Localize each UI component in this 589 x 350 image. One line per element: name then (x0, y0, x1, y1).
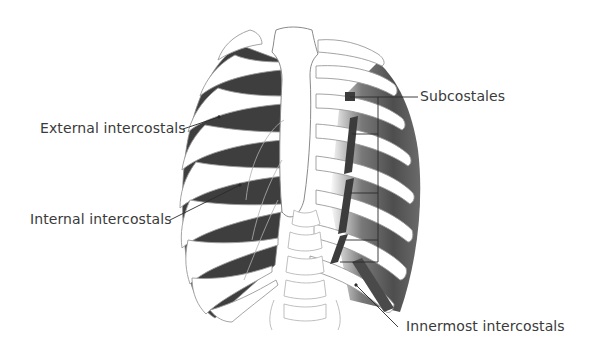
rib-cage-illustration (0, 0, 589, 350)
label-external-intercostals: External intercostals (40, 120, 186, 136)
label-innermost-intercostals: Innermost intercostals (406, 318, 565, 334)
label-internal-intercostals: Internal intercostals (30, 211, 172, 227)
label-subcostales: Subcostales (420, 88, 505, 104)
